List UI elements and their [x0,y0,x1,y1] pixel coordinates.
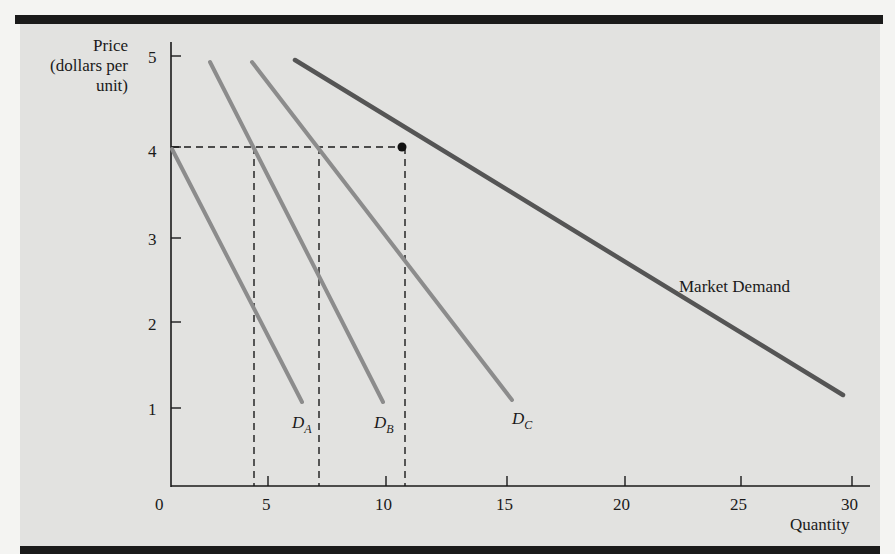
x-tick-label-0: 0 [155,495,164,514]
chart-plot: 5 4 3 2 1 0 5 10 15 20 25 30 Quantity DA… [0,0,895,554]
y-tick-label-4: 4 [148,142,157,161]
x-tick-label-5: 5 [262,495,271,514]
reference-lines [172,147,405,486]
x-ticks [268,476,852,486]
label-market-demand: Market Demand [679,277,790,296]
demand-curve-a [172,149,302,402]
x-tick-label-10: 10 [375,495,392,514]
y-tick-label-3: 3 [148,230,157,249]
x-tick-label-25: 25 [730,495,747,514]
x-tick-label-20: 20 [613,495,630,514]
label-d-c: DC [511,409,533,432]
market-point-marker [398,143,407,152]
x-tick-label-15: 15 [496,495,513,514]
label-d-b: DB [373,413,394,436]
y-ticks [171,56,181,408]
y-tick-label-1: 1 [148,400,157,419]
y-tick-label-5: 5 [148,48,157,67]
x-tick-label-30: 30 [841,495,858,514]
demand-curve-b [210,62,383,402]
x-axis-title: Quantity [790,515,850,534]
y-tick-label-2: 2 [148,315,157,334]
label-d-a: DA [291,413,312,436]
